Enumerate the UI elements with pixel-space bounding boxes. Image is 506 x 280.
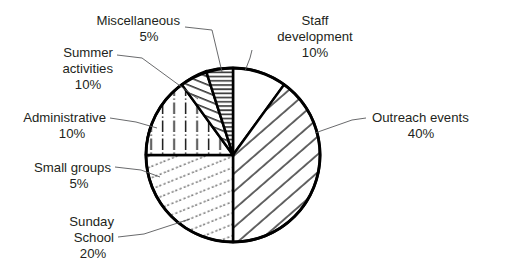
- label-staff-development-value: 10%: [302, 45, 329, 60]
- label-summer-activities-name-1: Summer: [63, 45, 113, 60]
- label-sunday-school-name-1: Sunday: [69, 214, 114, 229]
- label-staff-development-name-1: Staff: [302, 13, 329, 28]
- label-miscellaneous-name: Miscellaneous: [96, 13, 180, 28]
- pie-chart-figure: Miscellaneous 5% Summer activities 10% A…: [0, 0, 506, 280]
- pie-chart-canvas: Miscellaneous 5% Summer activities 10% A…: [0, 0, 506, 280]
- label-sunday-school-value: 20%: [80, 246, 107, 261]
- label-miscellaneous-value: 5%: [139, 29, 158, 44]
- label-outreach-events-value: 40%: [408, 126, 435, 141]
- leader-line-miscellaneous: [185, 27, 222, 72]
- leader-line-outreach-events: [315, 118, 366, 133]
- label-sunday-school-name-2: School: [74, 230, 114, 245]
- label-summer-activities-name-2: activities: [62, 61, 113, 76]
- label-outreach-events-name: Outreach events: [372, 110, 469, 125]
- leader-line-staff-development: [245, 50, 252, 71]
- pie-slices: [146, 68, 320, 242]
- label-staff-development-name-2: development: [277, 29, 353, 44]
- label-small-groups-value: 5%: [69, 176, 88, 191]
- label-administrative-name: Administrative: [23, 110, 106, 125]
- label-administrative-value: 10%: [59, 126, 86, 141]
- label-small-groups-name: Small groups: [34, 160, 111, 175]
- label-summer-activities-value: 10%: [75, 77, 102, 92]
